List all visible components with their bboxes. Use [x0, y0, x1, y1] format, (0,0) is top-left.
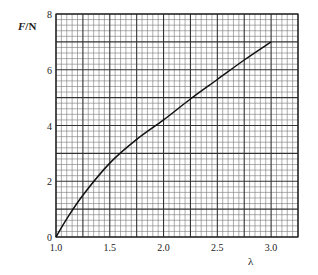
x-tick-label: 1.5 [104, 242, 117, 253]
x-tick-label: 3.0 [265, 242, 278, 253]
x-tick-label: 2.5 [211, 242, 224, 253]
x-tick-label: 1.0 [50, 242, 63, 253]
y-tick-label: 2 [47, 176, 52, 187]
y-tick-label: 6 [47, 65, 52, 76]
y-tick-label: 4 [47, 121, 52, 132]
x-axis-label: λ [248, 255, 254, 267]
chart: 1.01.52.02.53.0 02468 F/N λ [0, 0, 318, 275]
y-axis-ticks: 02468 [47, 9, 52, 243]
x-axis-ticks: 1.01.52.02.53.0 [50, 242, 278, 253]
y-axis-label: F/N [17, 20, 36, 32]
x-tick-label: 2.0 [157, 242, 170, 253]
y-tick-label: 8 [47, 9, 52, 20]
y-tick-label: 0 [47, 232, 52, 243]
